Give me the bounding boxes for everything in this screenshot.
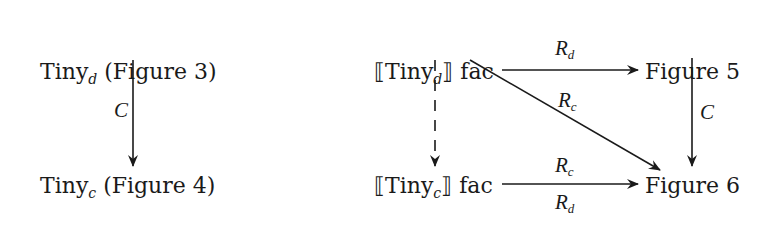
node-suffix: fac [452,173,493,198]
tiny-d-figure-3-node: Tinyd (Figure 3) [40,61,217,86]
bottom-rd-label: Rd [555,192,574,215]
label-subscript: c [568,164,574,179]
node-base: Tiny [385,173,433,198]
label-base: R [555,36,568,60]
label-base: R [558,88,571,112]
diagonal-rc-label: Rc [558,90,577,113]
left-c-label: C [114,100,128,121]
tiny-d-fac-node: ⟦Tinyd⟧ fac [374,61,494,86]
semantic-bracket-open: ⟦ [374,59,385,84]
figure-6-node: Figure 6 [645,175,740,197]
node-suffix: (Figure 3) [97,59,216,84]
figure-5-node: Figure 5 [645,61,740,83]
label-subscript: c [571,99,577,114]
top-rd-label: Rd [555,38,574,61]
semantic-bracket-open: ⟦ [374,173,385,198]
label-base: R [555,190,568,214]
node-subscript: c [433,185,441,201]
node-base: Tiny [385,59,433,84]
node-suffix: (Figure 4) [96,173,215,198]
node-subscript: d [88,71,97,87]
label-subscript: d [568,47,575,62]
node-subscript: c [88,185,96,201]
node-base: Tiny [40,173,88,198]
bottom-rc-label: Rc [555,155,574,178]
label-base: R [555,153,568,177]
semantic-bracket-close: ⟧ [442,59,453,84]
tiny-c-figure-4-node: Tinyc (Figure 4) [40,175,215,200]
semantic-bracket-close: ⟧ [441,173,452,198]
node-base: Tiny [40,59,88,84]
label-subscript: d [568,201,575,216]
node-suffix: fac [453,59,494,84]
right-c-label: C [700,102,714,123]
node-subscript: d [433,71,442,87]
tiny-c-fac-node: ⟦Tinyc⟧ fac [374,175,493,200]
